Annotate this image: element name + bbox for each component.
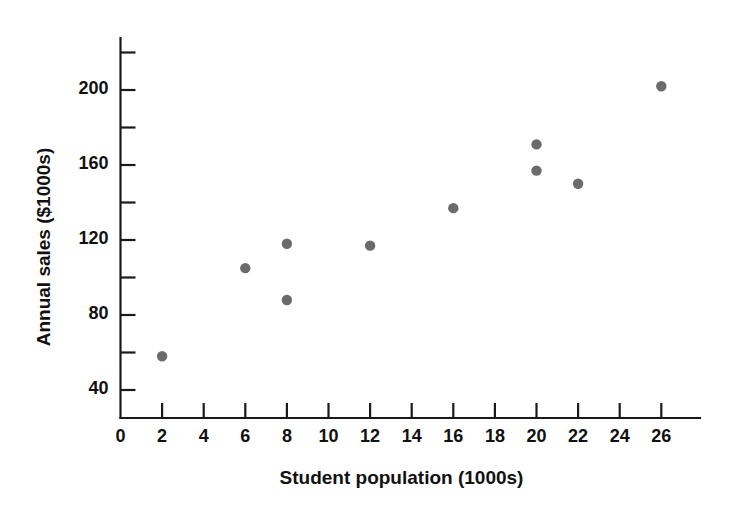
x-tick-label: 16 — [433, 426, 473, 447]
data-point-marker — [656, 81, 666, 91]
x-tick-label: 10 — [309, 426, 349, 447]
data-point-marker — [365, 240, 375, 250]
x-tick-label: 12 — [350, 426, 390, 447]
x-tick-label: 8 — [267, 426, 307, 447]
data-point-marker — [282, 239, 292, 249]
x-tick-label: 4 — [184, 426, 224, 447]
y-tick-label: 200 — [49, 78, 109, 99]
x-tick-label: 18 — [475, 426, 515, 447]
data-point-marker — [157, 351, 167, 361]
y-tick-label: 120 — [49, 228, 109, 249]
x-tick-label: 26 — [641, 426, 681, 447]
x-tick-label: 22 — [558, 426, 598, 447]
x-tick-label: 14 — [392, 426, 432, 447]
data-point-marker — [531, 165, 541, 175]
x-tick-label: 24 — [600, 426, 640, 447]
data-point-marker — [448, 203, 458, 213]
y-tick-label: 160 — [49, 153, 109, 174]
x-tick-label: 6 — [225, 426, 265, 447]
data-point-marker — [240, 263, 250, 273]
x-axis-title: Student population (1000s) — [0, 467, 743, 489]
x-tick-label: 20 — [517, 426, 557, 447]
y-tick-label: 40 — [49, 378, 109, 399]
y-tick-label: 80 — [49, 303, 109, 324]
scatter-chart: Annual sales ($1000s) Student population… — [0, 0, 743, 508]
x-tick-label: 0 — [101, 426, 141, 447]
data-point-marker — [282, 295, 292, 305]
data-point-marker — [531, 139, 541, 149]
data-point-marker — [573, 179, 583, 189]
x-tick-label: 2 — [142, 426, 182, 447]
